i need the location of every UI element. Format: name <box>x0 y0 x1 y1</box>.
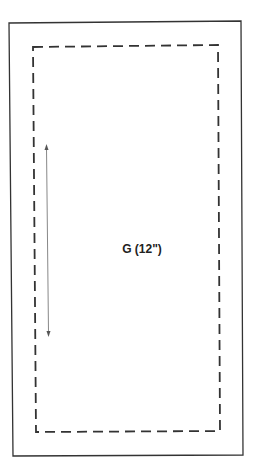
dimension-label: G (12") <box>100 242 184 256</box>
dashed-inner-border <box>33 45 220 432</box>
outer-panel-border <box>9 21 243 456</box>
arrow-head-down-icon <box>47 331 51 337</box>
arrow-head-up-icon <box>45 144 49 150</box>
vertical-dimension-arrow <box>45 144 51 337</box>
diagram-canvas <box>0 0 256 476</box>
